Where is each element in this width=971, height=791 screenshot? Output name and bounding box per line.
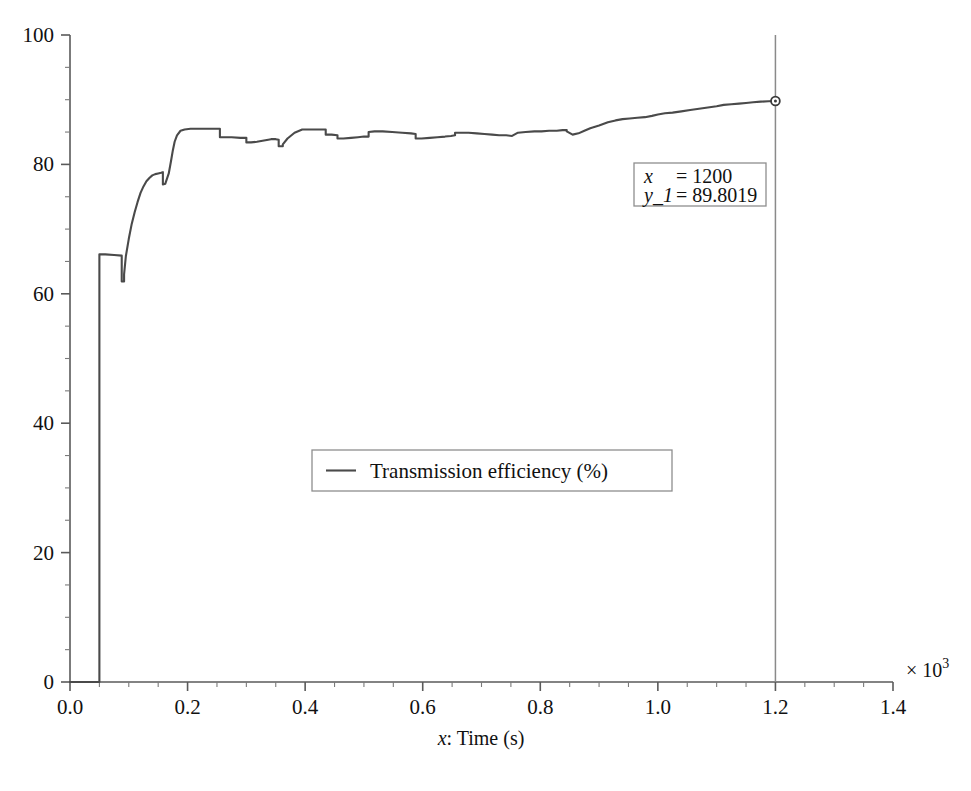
data-cursor-y-label: y_1	[642, 184, 673, 207]
y-tick-label: 20	[33, 541, 54, 565]
legend[interactable]: Transmission efficiency (%)	[312, 450, 672, 491]
data-cursor-y-row: y_1= 89.8019	[642, 184, 757, 207]
x-tick-label: 0.0	[57, 695, 83, 719]
x-axis-multiplier-exponent: 3	[942, 656, 949, 671]
x-axis-ticks: 0.00.20.40.60.81.01.21.4	[57, 682, 907, 719]
x-axis-multiplier-base: × 10	[906, 659, 942, 681]
y-tick-label: 60	[33, 282, 54, 306]
data-cursor-marker-dot	[774, 99, 777, 102]
x-tick-label: 0.8	[527, 695, 553, 719]
y-tick-label: 40	[33, 411, 54, 435]
x-tick-label: 0.2	[174, 695, 200, 719]
x-tick-label: 1.4	[880, 695, 907, 719]
transmission-efficiency-line-chart[interactable]: 020406080100 0.00.20.40.60.81.01.21.4 × …	[0, 0, 971, 791]
y-tick-label: 0	[44, 670, 55, 694]
x-tick-label: 0.6	[410, 695, 436, 719]
y-tick-label: 100	[23, 23, 55, 47]
chart-figure: 020406080100 0.00.20.40.60.81.01.21.4 × …	[0, 0, 971, 791]
x-tick-label: 1.0	[645, 695, 671, 719]
data-cursor-y-value: = 89.8019	[676, 184, 757, 206]
y-tick-label: 80	[33, 152, 54, 176]
x-axis-multiplier: × 103	[906, 656, 949, 681]
legend-label-transmission-efficiency: Transmission efficiency (%)	[370, 459, 608, 483]
x-axis-title-italic: x	[437, 727, 447, 749]
x-tick-label: 0.4	[292, 695, 319, 719]
x-axis-title: x: Time (s)	[437, 727, 525, 750]
x-axis-title-rest: : Time (s)	[447, 727, 525, 750]
y-axis-ticks: 020406080100	[23, 23, 71, 694]
x-tick-label: 1.2	[762, 695, 788, 719]
data-cursor-tooltip[interactable]: x= 1200 y_1= 89.8019	[634, 163, 766, 207]
